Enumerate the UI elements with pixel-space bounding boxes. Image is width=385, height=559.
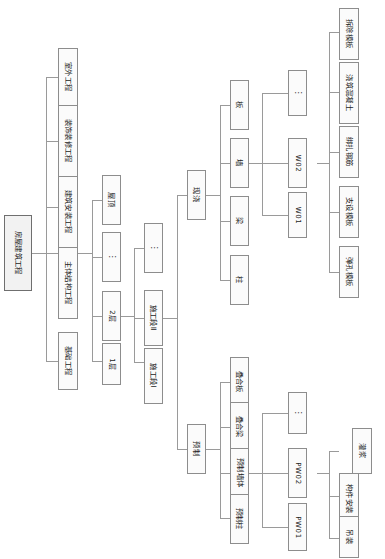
node-label: 现浇	[193, 188, 200, 203]
node-precast-unit-ellipsis[interactable]: ⋮	[288, 392, 307, 434]
connector	[329, 152, 339, 153]
connector	[220, 473, 230, 474]
node-member-beam[interactable]: 梁	[230, 196, 249, 246]
node-process-pour-concrete[interactable]: 浇筑混凝土	[339, 62, 359, 124]
connector	[329, 538, 339, 539]
connector	[262, 215, 288, 216]
node-label: 房屋建筑工程	[14, 231, 21, 275]
node-level2-decoration[interactable]: 装饰装修工程	[58, 105, 78, 177]
connector	[92, 200, 102, 201]
node-member-wall[interactable]: 墙	[230, 138, 249, 188]
node-label: 施工段Ⅱ	[150, 305, 157, 331]
connector	[46, 77, 58, 78]
node-label: 柱	[236, 276, 243, 283]
connector	[134, 318, 144, 319]
connector	[46, 141, 58, 142]
connector	[262, 163, 288, 164]
node-precast-composite-beam[interactable]: 叠合梁	[230, 402, 249, 452]
node-label: ⋮	[108, 253, 116, 262]
node-section-1[interactable]: 施工段Ⅰ	[144, 348, 163, 404]
node-label: ⋮	[294, 409, 302, 418]
node-process-tie-rebar[interactable]: 绑扎钢筋	[339, 126, 359, 178]
connector	[262, 413, 263, 527]
node-label: 施工段Ⅰ	[150, 364, 157, 389]
node-label: 浇筑混凝土	[345, 75, 352, 112]
node-floor-1[interactable]: 1层	[102, 343, 121, 385]
node-member-column[interactable]: 柱	[230, 255, 249, 305]
node-label: PW01	[294, 516, 301, 538]
node-label: 叠合板	[236, 371, 243, 393]
connector	[329, 451, 339, 452]
node-precast-unit-pw01[interactable]: PW01	[288, 503, 307, 551]
node-method-cast-in-situ[interactable]: 现浇	[187, 170, 206, 220]
connector	[206, 449, 220, 450]
node-label: 预制柱	[236, 508, 243, 530]
node-level2-foundation[interactable]: 基础工程	[58, 332, 78, 390]
connector	[220, 221, 230, 222]
connector	[220, 163, 230, 164]
node-label: 室外工程	[64, 62, 71, 92]
node-precast-column[interactable]: 预制柱	[230, 494, 249, 544]
connector	[163, 318, 177, 319]
connector	[329, 32, 339, 33]
node-process-remove-formwork[interactable]: 拆除模板	[339, 8, 359, 60]
connector	[46, 77, 47, 361]
connector	[329, 92, 339, 93]
node-floor-roof[interactable]: 屋顶	[102, 175, 121, 225]
connector	[134, 248, 144, 249]
connector	[262, 413, 288, 414]
node-root[interactable]: 房屋建筑工程	[4, 215, 32, 291]
node-wall-unit-w01[interactable]: W01	[288, 192, 307, 238]
node-label: 主体结构工程	[64, 261, 71, 305]
node-label: 弹孔模板	[345, 257, 352, 287]
connector	[262, 93, 288, 94]
node-section-ellipsis[interactable]: ⋮	[144, 223, 163, 273]
connector	[317, 473, 329, 474]
node-floor-2[interactable]: 2层	[102, 291, 121, 341]
node-label: 叠合梁	[236, 416, 243, 438]
connector	[46, 253, 58, 254]
connector	[262, 473, 288, 474]
node-process-layout-line[interactable]: 弹孔模板	[339, 246, 359, 298]
connector	[220, 280, 230, 281]
connector	[32, 253, 46, 254]
connector	[134, 362, 144, 363]
node-section-2[interactable]: 施工段Ⅱ	[144, 290, 163, 346]
node-label: 墙	[236, 159, 243, 166]
connector	[46, 361, 58, 362]
node-label: 预制墙体	[236, 458, 243, 488]
connector	[262, 93, 263, 215]
node-label: 2层	[108, 310, 115, 323]
node-precast-composite-slab[interactable]: 叠合板	[230, 357, 249, 407]
node-level2-installation[interactable]: 建筑安装工程	[58, 176, 78, 248]
connector	[206, 195, 220, 196]
node-process-erect-formwork[interactable]: 支设模板	[339, 186, 359, 238]
node-label: 支设模板	[345, 197, 352, 227]
node-precast-unit-pw02[interactable]: PW02	[288, 448, 307, 498]
connector	[92, 361, 102, 362]
node-label: 1层	[108, 358, 115, 371]
node-label: PW02	[294, 462, 301, 484]
node-process-hoisting[interactable]: 吊装	[339, 516, 359, 558]
node-label: W02	[294, 154, 301, 172]
node-floor-ellipsis[interactable]: ⋮	[102, 232, 121, 282]
node-label: 梁	[236, 217, 243, 224]
node-level2-main-structure[interactable]: 主体结构工程	[58, 247, 78, 319]
node-wall-unit-ellipsis[interactable]: ⋮	[288, 70, 307, 116]
node-label: 建筑安装工程	[64, 190, 71, 234]
connector	[220, 518, 230, 519]
connector	[329, 212, 339, 213]
node-method-precast[interactable]: 预制	[187, 424, 206, 474]
connector	[329, 496, 339, 497]
node-wall-unit-w02[interactable]: W02	[288, 138, 307, 188]
node-precast-wall[interactable]: 预制墙体	[230, 448, 249, 498]
connector	[329, 451, 330, 538]
node-process-grouting[interactable]: 灌浆	[352, 428, 372, 474]
connector	[78, 253, 92, 254]
node-label: 吊装	[345, 530, 352, 545]
connector	[249, 163, 262, 164]
connector	[262, 527, 288, 528]
node-member-slab[interactable]: 板	[230, 80, 249, 130]
node-level2-outdoor[interactable]: 室外工程	[58, 48, 78, 106]
connector	[92, 316, 102, 317]
